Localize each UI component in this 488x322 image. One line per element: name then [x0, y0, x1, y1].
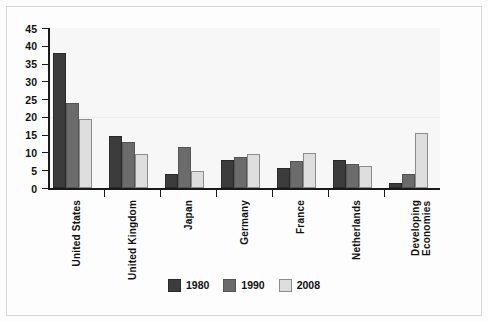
x-axis-category-label: Japan [183, 200, 194, 230]
x-axis-tick [328, 190, 329, 197]
bar[interactable] [178, 147, 191, 188]
x-axis-tick [384, 190, 385, 197]
y-axis-tick-label: 40 [25, 41, 42, 52]
y-axis-tick: 0 [42, 188, 48, 189]
y-axis-tick: 30 [42, 81, 48, 82]
y-axis-tick: 40 [42, 46, 48, 47]
bar[interactable] [234, 157, 247, 188]
legend-item[interactable]: 1990 [223, 279, 264, 292]
bar[interactable] [66, 103, 79, 188]
x-axis-tick [216, 190, 217, 197]
chart-legend: 198019902008 [0, 279, 488, 292]
bar[interactable] [415, 133, 428, 188]
bar[interactable] [290, 161, 303, 188]
legend-swatch [168, 279, 181, 292]
y-axis-tick-label: 10 [25, 148, 42, 159]
y-axis-tick: 35 [42, 64, 48, 65]
plot-area [48, 28, 440, 188]
bar[interactable] [221, 160, 234, 188]
legend-swatch [279, 279, 292, 292]
x-axis-tick [104, 190, 105, 197]
bar-group [221, 28, 260, 188]
y-axis-tick-label: 45 [25, 23, 42, 34]
x-axis-category-label: United Kingdom [127, 200, 138, 280]
bar[interactable] [346, 164, 359, 188]
bar[interactable] [79, 119, 92, 188]
bar-group [165, 28, 204, 188]
y-axis-tick-label: 20 [25, 112, 42, 123]
bar[interactable] [165, 174, 178, 188]
bar[interactable] [135, 154, 148, 188]
x-axis-tick [272, 190, 273, 197]
bar-group [389, 28, 428, 188]
y-axis-tick: 15 [42, 135, 48, 136]
y-axis-tick: 20 [42, 117, 48, 118]
y-axis-line [48, 28, 50, 189]
x-axis-category-label: Developing Economies [410, 200, 432, 256]
y-axis-tick-label: 0 [31, 183, 42, 194]
bar[interactable] [303, 153, 316, 188]
x-axis-tick [160, 190, 161, 197]
bar[interactable] [359, 166, 372, 188]
bar[interactable] [402, 174, 415, 188]
x-axis-line [48, 188, 440, 190]
legend-label: 2008 [297, 280, 320, 291]
y-axis-tick: 10 [42, 152, 48, 153]
y-axis-tick-label: 30 [25, 77, 42, 88]
bar[interactable] [122, 142, 135, 188]
bar[interactable] [109, 136, 122, 188]
bar[interactable] [53, 53, 66, 188]
y-axis-tick-label: 35 [25, 59, 42, 70]
legend-item[interactable]: 1980 [168, 279, 209, 292]
bar-group [277, 28, 316, 188]
y-axis-tick-label: 15 [25, 130, 42, 141]
legend-item[interactable]: 2008 [279, 279, 320, 292]
x-axis-category-label: United States [71, 200, 82, 267]
legend-label: 1990 [241, 280, 264, 291]
bar-group [53, 28, 92, 188]
legend-swatch [223, 279, 236, 292]
bar[interactable] [333, 160, 346, 188]
x-axis-category-label: France [295, 200, 306, 234]
legend-label: 1980 [186, 280, 209, 291]
bar[interactable] [247, 154, 260, 188]
x-axis-category-label: Netherlands [351, 200, 362, 260]
y-axis-tick: 45 [42, 28, 48, 29]
bar-group [333, 28, 372, 188]
y-axis-tick-label: 5 [31, 165, 42, 176]
y-axis-tick: 5 [42, 170, 48, 171]
bar-group [109, 28, 148, 188]
bar[interactable] [277, 168, 290, 188]
y-axis-tick: 25 [42, 99, 48, 100]
x-axis-category-label: Germany [239, 200, 250, 245]
y-axis-tick-label: 25 [25, 94, 42, 105]
bar[interactable] [191, 171, 204, 188]
bar-chart-figure: 051015202530354045 United StatesUnited K… [0, 0, 488, 322]
